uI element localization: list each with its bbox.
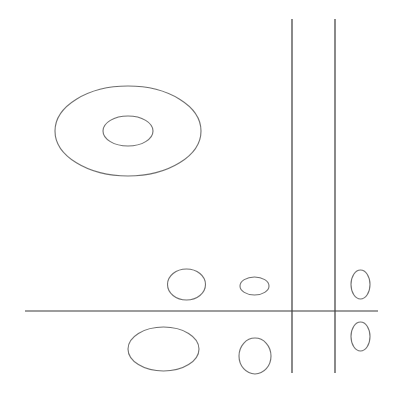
diagram-canvas bbox=[0, 0, 393, 397]
lower-ellipse-3 bbox=[351, 322, 370, 351]
large-outer-ellipse bbox=[55, 86, 201, 176]
upper-ellipse-3 bbox=[351, 270, 370, 299]
upper-ellipse-2 bbox=[240, 277, 269, 295]
upper-ellipse-1 bbox=[168, 269, 206, 300]
lines-group bbox=[25, 19, 378, 373]
ellipses-group bbox=[55, 86, 370, 374]
lower-ellipse-1 bbox=[128, 327, 199, 371]
large-inner-ellipse bbox=[103, 116, 153, 146]
lower-ellipse-2 bbox=[239, 338, 271, 374]
